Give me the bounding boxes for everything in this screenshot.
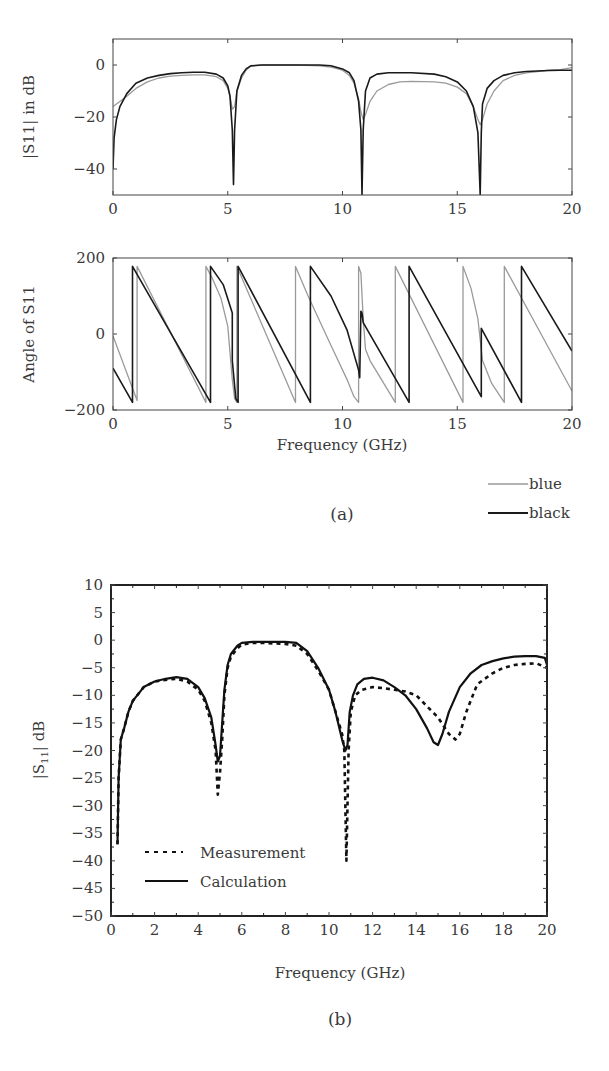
y-tick-label: −5 [81,659,103,677]
x-tick-label: 5 [223,200,233,218]
plot-area [113,65,572,195]
x-tick-label: 20 [562,200,581,218]
series-black [113,65,572,195]
x-tick-label: 10 [333,200,352,218]
x-axis-label: Frequency (GHz) [275,964,406,982]
axis-ticks: 024681012141618201050−5−10−15−20−25−30−3… [71,576,556,939]
y-tick-label: −25 [71,769,103,787]
plot-area [113,266,572,402]
y-tick-label: −30 [71,797,103,815]
y-tick-label: −35 [71,824,103,842]
y-tick-label: 0 [95,56,105,74]
legend-label-calculation: Calculation [200,873,287,891]
x-tick-label: 6 [237,921,247,939]
chart-s11-angle-a: 051015202000−200 Angle of S11 Frequency … [20,249,582,454]
series-blue [113,266,572,402]
x-tick-label: 20 [537,921,556,939]
x-tick-label: 0 [106,921,116,939]
x-tick-label: 4 [193,921,203,939]
y-tick-label: −10 [71,686,103,704]
y-tick-label: 0 [95,325,105,343]
y-tick-label: −200 [64,401,105,419]
x-tick-label: 20 [562,415,581,433]
legend-b: Measurement Calculation [145,844,305,891]
caption-a: (a) [330,504,353,524]
y-tick-label: 10 [84,576,103,594]
y-axis-label: |S11| dB [30,721,50,780]
y-tick-label: 200 [76,249,105,267]
series-calculation [118,642,548,845]
y-axis-label: Angle of S11 [20,285,38,383]
legend-label-blue: blue [529,475,562,493]
y-tick-label: −40 [71,852,103,870]
y-tick-label: −50 [71,907,103,925]
y-tick-label: 0 [93,631,103,649]
series-black [113,266,572,402]
x-tick-label: 18 [494,921,513,939]
y-tick-label: −20 [71,742,103,760]
chart-s11-measurement-vs-calculation: 024681012141618201050−5−10−15−20−25−30−3… [30,576,557,982]
x-tick-label: 10 [319,921,338,939]
x-tick-label: 14 [407,921,426,939]
x-tick-label: 10 [333,415,352,433]
caption-b: (b) [328,1009,352,1029]
legend-label-measurement: Measurement [200,844,305,862]
x-tick-label: 15 [448,200,467,218]
y-tick-label: 5 [93,604,103,622]
figure: 051015200−20−40 |S11| in dB 051015202000… [0,0,609,1071]
series-blue [113,65,572,125]
y-axis-label: |S11| in dB [20,75,38,159]
x-tick-label: 5 [223,415,233,433]
x-tick-label: 0 [108,415,118,433]
legend-label-black: black [529,504,571,522]
plot-frame [111,585,547,916]
x-axis-label: Frequency (GHz) [277,436,408,454]
chart-s11-magnitude-a: 051015200−20−40 |S11| in dB [20,39,582,218]
x-tick-label: 15 [448,415,467,433]
series-measurement [118,643,548,861]
plot-frame [113,258,572,410]
plot-frame [113,39,572,195]
x-tick-label: 8 [281,921,291,939]
y-tick-label: −45 [71,879,103,897]
x-tick-label: 2 [150,921,160,939]
legend-a: blue black [488,475,571,522]
y-tick-label: −20 [73,108,105,126]
x-tick-label: 12 [363,921,382,939]
y-tick-label: −15 [71,714,103,732]
plot-area [118,642,548,861]
x-tick-label: 16 [450,921,469,939]
y-tick-label: −40 [73,160,105,178]
x-tick-label: 0 [108,200,118,218]
